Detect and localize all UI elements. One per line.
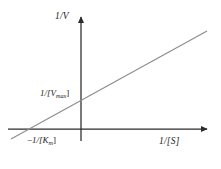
x-intercept-subscript: m (49, 139, 53, 146)
x-intercept-closing: ] (53, 135, 56, 145)
y-intercept-label: 1/[Vmax] (40, 88, 69, 98)
y-intercept-base: 1/[V (40, 88, 56, 98)
x-intercept-label: −1/[Km] (27, 135, 56, 145)
x-axis-label: 1/[S] (159, 136, 180, 146)
y-intercept-subscript: max (56, 92, 66, 99)
x-intercept-base: 1/[K (32, 135, 49, 145)
regression-line (11, 31, 207, 139)
lineweaver-burk-plot-figure: 1/V 1/[S] 1/[Vmax] −1/[Km] (0, 0, 221, 169)
y-intercept-closing: ] (66, 88, 69, 98)
x-axis-label-text: 1/[S] (159, 136, 180, 146)
caption-strip (0, 159, 221, 169)
y-axis-label: 1/V (55, 11, 69, 21)
